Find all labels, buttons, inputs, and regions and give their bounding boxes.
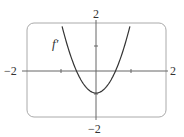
x-min-label: −2 [4, 64, 17, 78]
chart: −2 2 2 −2 f′ [0, 0, 184, 137]
y-max-label: 2 [93, 7, 99, 21]
y-min-label: −2 [88, 122, 101, 136]
x-max-label: 2 [170, 64, 176, 78]
curve-label: f′ [52, 36, 59, 51]
